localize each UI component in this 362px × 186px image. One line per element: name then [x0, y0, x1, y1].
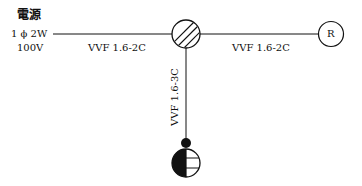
- power-source-voltage: 100V: [17, 43, 43, 53]
- diagram-lines: [0, 0, 362, 186]
- power-source-phase: 1 ϕ 2W: [11, 29, 47, 39]
- cable-label-down: VVF 1.6-3C: [170, 67, 180, 127]
- receptacle-label: R: [327, 29, 335, 39]
- wiring-diagram: 電源 1 ϕ 2W 100V VVF 1.6-2C VVF 1.6-2C VVF…: [0, 0, 362, 186]
- cable-label-right: VVF 1.6-2C: [232, 43, 290, 53]
- switch-dot-icon: [181, 138, 191, 148]
- switch-receptacle-icon: [172, 149, 200, 177]
- cable-label-left: VVF 1.6-2C: [88, 43, 146, 53]
- power-source-title: 電源: [17, 9, 41, 21]
